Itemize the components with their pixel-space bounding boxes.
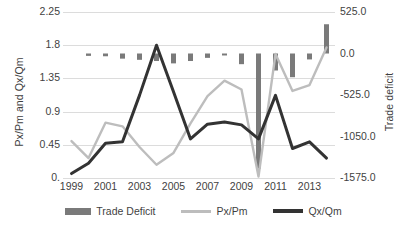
legend-item[interactable]: Trade Deficit	[65, 205, 155, 217]
legend-label: Qx/Qm	[308, 205, 341, 217]
legend-item[interactable]: Qx/Qm	[273, 205, 341, 217]
legend-bar-swatch-icon	[65, 208, 91, 215]
chart-legend: Trade DeficitPx/PmQx/Qm	[0, 205, 407, 217]
legend-line-swatch-icon	[181, 210, 211, 213]
legend-label: Px/Pm	[216, 205, 247, 217]
bar-trade-deficit	[137, 54, 142, 60]
legend-label: Trade Deficit	[96, 205, 155, 217]
bar-trade-deficit	[86, 54, 91, 56]
plot-area	[63, 12, 335, 178]
bar-trade-deficit	[120, 54, 125, 59]
y-axis-right-tick: -1050.0	[340, 130, 404, 142]
y-axis-right-tick: 525.0	[340, 5, 404, 17]
x-axis-tick: 2013	[290, 180, 330, 192]
bar-trade-deficit	[205, 54, 210, 58]
legend-line-swatch-icon	[273, 209, 303, 213]
legend-item[interactable]: Px/Pm	[181, 205, 247, 217]
y-axis-left-tick: 0.45	[0, 138, 60, 150]
y-axis-left-tick: 0.9	[0, 105, 60, 117]
line-series-px-pm	[72, 47, 327, 176]
bar-trade-deficit	[239, 54, 244, 65]
y-axis-left-tick: 2.25	[0, 5, 60, 17]
y-axis-right-tick: -1575.0	[340, 171, 404, 183]
y-axis-right-tick: -525.0	[340, 88, 404, 100]
bar-trade-deficit	[171, 54, 176, 64]
y-axis-left-tick: 1.35	[0, 71, 60, 83]
bar-trade-deficit	[256, 54, 261, 169]
bar-trade-deficit	[103, 54, 108, 57]
gridline	[63, 178, 335, 179]
y-axis-right-tick: 0.0	[340, 47, 404, 59]
bar-trade-deficit	[188, 54, 193, 62]
bar-trade-deficit	[290, 54, 295, 78]
bar-trade-deficit	[222, 54, 227, 56]
y-axis-left-tick: 1.8	[0, 38, 60, 50]
bar-trade-deficit	[307, 54, 312, 60]
chart-container: Px/Pm and Qx/Qm Trade deficit 2.251.81.3…	[0, 0, 407, 237]
plot-svg	[63, 12, 335, 178]
